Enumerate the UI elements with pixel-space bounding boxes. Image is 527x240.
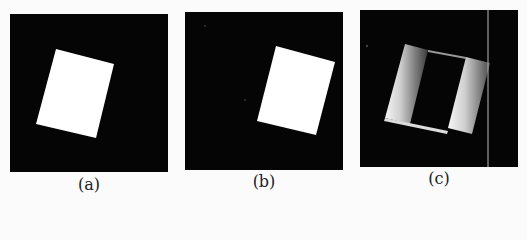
caption-b: (b) (234, 172, 294, 191)
difference-band-left (385, 44, 428, 124)
difference-edge-bottom (384, 118, 448, 134)
rectangle-a (36, 49, 114, 138)
rectangle-b (257, 46, 335, 135)
difference-edge-top (428, 50, 466, 59)
difference-band-right (448, 57, 490, 134)
caption-a: (a) (59, 175, 119, 194)
caption-c: (c) (409, 169, 469, 188)
